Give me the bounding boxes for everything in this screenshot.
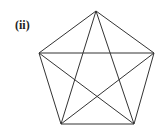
edge-right-bottom-right: [134, 53, 154, 124]
edge-right-bottom-left: [61, 53, 154, 124]
edge-bottom-left-left: [39, 53, 61, 124]
edge-top-bottom-right: [96, 11, 134, 124]
pentagon-diagram: [0, 0, 162, 127]
edge-left-top: [39, 11, 96, 53]
edge-top-bottom-left: [61, 11, 96, 124]
edge-top-right: [96, 11, 154, 53]
edge-left-bottom-right: [39, 53, 134, 124]
